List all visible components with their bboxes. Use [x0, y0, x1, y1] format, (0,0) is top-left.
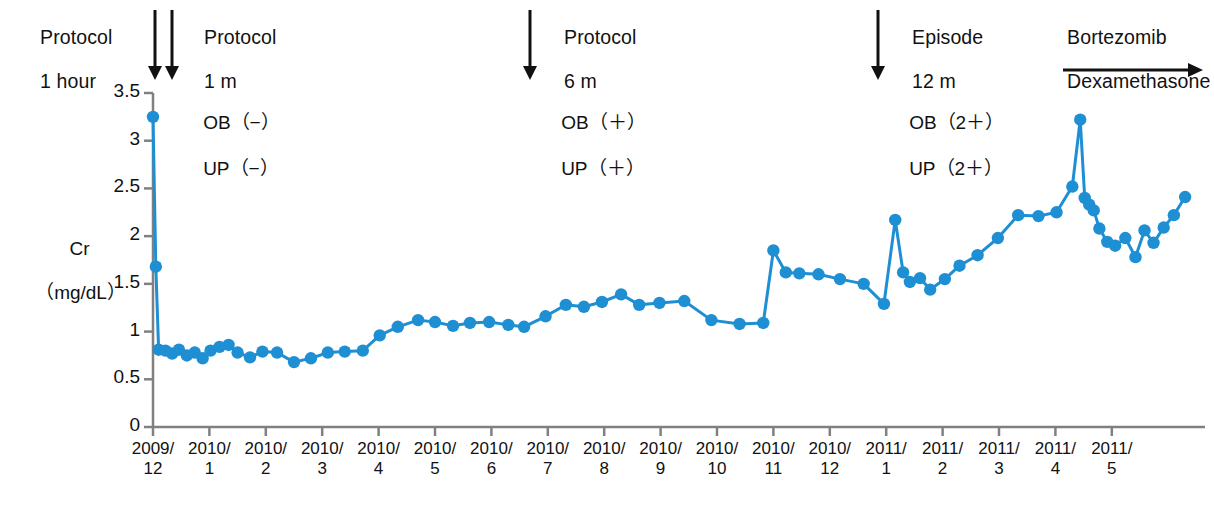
y-tick-label: 1: [80, 319, 140, 341]
data-point: [483, 316, 495, 328]
data-point: [953, 260, 965, 272]
data-point: [678, 295, 690, 307]
data-point: [615, 288, 627, 300]
data-point: [857, 278, 869, 290]
data-point: [1168, 209, 1180, 221]
data-point: [1138, 224, 1150, 236]
data-point: [231, 346, 243, 358]
data-point: [1179, 191, 1191, 203]
data-point: [1147, 237, 1159, 249]
data-point: [150, 260, 162, 272]
data-point: [578, 301, 590, 313]
data-point: [244, 351, 256, 363]
data-point: [939, 273, 951, 285]
data-point: [412, 314, 424, 326]
data-point: [1012, 209, 1024, 221]
data-point: [560, 299, 572, 311]
data-point: [1109, 239, 1121, 251]
data-point: [288, 356, 300, 368]
data-point: [1066, 180, 1078, 192]
x-tick-month: 5: [1078, 459, 1146, 479]
y-tick-label: 3: [80, 128, 140, 150]
data-point: [633, 299, 645, 311]
y-tick-label: 0.5: [80, 366, 140, 388]
data-point: [992, 232, 1004, 244]
data-point: [447, 320, 459, 332]
series-line-Cr: [153, 117, 1185, 362]
data-point: [305, 352, 317, 364]
data-point: [1129, 251, 1141, 263]
data-point: [1050, 206, 1062, 218]
creatinine-trend-figure: Protocol 1 hour Protocol 1 m Protocol 6 …: [0, 0, 1214, 506]
data-point: [878, 298, 890, 310]
data-point: [1074, 114, 1086, 126]
data-series-layer: [147, 111, 1192, 369]
data-point: [780, 266, 792, 278]
data-point: [322, 346, 334, 358]
y-tick-label: 2: [80, 223, 140, 245]
data-point: [1032, 210, 1044, 222]
data-point: [339, 345, 351, 357]
data-point: [914, 272, 926, 284]
data-point: [518, 321, 530, 333]
data-point: [733, 318, 745, 330]
data-point: [812, 268, 824, 280]
chart-axes: [144, 93, 1205, 436]
annotation-arrows: [148, 10, 1203, 80]
x-tick-year: 2011/: [1078, 439, 1146, 459]
data-point: [793, 267, 805, 279]
data-point: [271, 346, 283, 358]
data-point: [502, 319, 514, 331]
data-point: [357, 344, 369, 356]
data-point: [464, 317, 476, 329]
y-tick-label: 0: [80, 414, 140, 436]
data-point: [705, 314, 717, 326]
data-point: [889, 214, 901, 226]
data-point: [539, 310, 551, 322]
data-point: [971, 249, 983, 261]
arrow-head-protocol-6-m-0: [523, 66, 537, 80]
y-tick-label: 2.5: [80, 175, 140, 197]
data-point: [653, 297, 665, 309]
y-tick-label: 1.5: [80, 271, 140, 293]
x-tick-label: 2011/5: [1078, 439, 1146, 479]
arrow-head-protocol-1-hour-1: [165, 66, 179, 80]
data-point: [1119, 232, 1131, 244]
chart-canvas: [0, 0, 1214, 506]
data-point: [834, 273, 846, 285]
data-point: [1088, 204, 1100, 216]
arrow-head-episode-12-m-0: [871, 66, 885, 80]
data-point: [596, 296, 608, 308]
y-tick-label: 3.5: [80, 80, 140, 102]
data-point: [256, 345, 268, 357]
data-point: [924, 283, 936, 295]
data-point: [1157, 221, 1169, 233]
data-point: [147, 111, 159, 123]
data-point: [1093, 222, 1105, 234]
data-point: [374, 329, 386, 341]
arrow-head-protocol-1-hour-0: [148, 66, 162, 80]
data-point: [767, 244, 779, 256]
arrow-head-bortezomib-dexamethasone: [1188, 63, 1203, 77]
data-point: [757, 317, 769, 329]
data-point: [392, 321, 404, 333]
data-point: [429, 316, 441, 328]
